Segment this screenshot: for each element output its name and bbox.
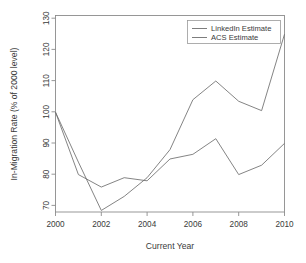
x-tick-label-2002: 2002: [92, 220, 111, 229]
y-tick-label-100: 100: [42, 105, 51, 119]
x-tick-label-2010: 2010: [275, 220, 294, 229]
y-tick-label-110: 110: [42, 74, 51, 87]
y-tick-label-80: 80: [42, 169, 51, 179]
x-tick-label-2006: 2006: [184, 220, 203, 229]
chart-container: 70 80 90 100 110 120 130 2000 2002 2004 …: [0, 0, 306, 263]
x-tick-label-2008: 2008: [230, 220, 249, 229]
y-axis-ticks: [52, 18, 56, 205]
series-line-linkedin: [56, 34, 285, 210]
x-tick-label-2000: 2000: [46, 220, 65, 229]
plot-frame: [56, 16, 285, 213]
legend-label-linkedin: LinkedIn Estimate: [211, 24, 271, 33]
y-tick-label-90: 90: [42, 138, 51, 148]
x-axis-ticks: [56, 212, 285, 216]
y-axis-title: In-Migration Rate (% of 2000 level): [9, 47, 19, 180]
legend: LinkedIn Estimate ACS Estimate: [188, 21, 281, 44]
y-tick-label-70: 70: [42, 200, 51, 210]
x-axis-tick-labels: 2000 2002 2004 2006 2008 2010: [46, 220, 294, 229]
line-chart: 70 80 90 100 110 120 130 2000 2002 2004 …: [0, 0, 306, 263]
x-axis-title: Current Year: [146, 241, 194, 251]
y-axis-tick-labels: 70 80 90 100 110 120 130: [42, 11, 51, 210]
legend-label-acs: ACS Estimate: [211, 33, 258, 42]
y-tick-label-130: 130: [42, 11, 51, 25]
y-tick-label-120: 120: [42, 42, 51, 56]
x-tick-label-2004: 2004: [138, 220, 157, 229]
